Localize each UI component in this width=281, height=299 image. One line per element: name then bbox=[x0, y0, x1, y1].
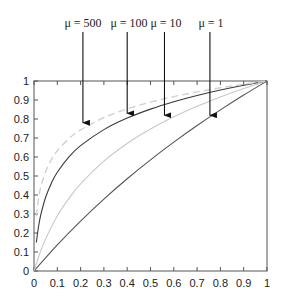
x-tick-label: 0.7 bbox=[189, 277, 204, 289]
x-tick-label: 0.4 bbox=[120, 277, 135, 289]
annotation-mu-10: μ = 10 bbox=[150, 16, 181, 30]
annotation-mu-500: μ = 500 bbox=[64, 16, 101, 30]
x-axis-tick-labels: 00.10.20.30.40.50.60.70.80.91 bbox=[31, 277, 270, 289]
annotation-mu-1: μ = 1 bbox=[198, 16, 223, 30]
annotation-layer: μ = 500 μ = 100 μ = 10 μ = 1 bbox=[64, 16, 223, 30]
y-tick-label: 0.5 bbox=[14, 170, 29, 182]
x-tick-label: 0.3 bbox=[96, 277, 111, 289]
x-tick-label: 0.9 bbox=[236, 277, 251, 289]
annotation-mu-100: μ = 100 bbox=[110, 16, 147, 30]
y-tick-label: 0.3 bbox=[14, 208, 29, 220]
x-tick-label: 0 bbox=[31, 277, 37, 289]
y-tick-label: 0.8 bbox=[14, 113, 29, 125]
y-tick-label: 0.2 bbox=[14, 227, 29, 239]
y-tick-label: 0 bbox=[23, 265, 29, 277]
y-axis-ticks bbox=[34, 81, 38, 271]
y-tick-label: 0.7 bbox=[14, 132, 29, 144]
x-tick-label: 0.2 bbox=[73, 277, 88, 289]
x-tick-label: 0.8 bbox=[213, 277, 228, 289]
y-tick-label: 0.1 bbox=[14, 246, 29, 258]
series-line bbox=[36, 81, 267, 242]
x-tick-label: 1 bbox=[264, 277, 270, 289]
y-axis-tick-labels: 00.10.20.30.40.50.60.70.80.91 bbox=[14, 75, 29, 277]
chart: 00.10.20.30.40.50.60.70.80.91 00.10.20.3… bbox=[0, 0, 281, 299]
y-tick-label: 1 bbox=[23, 75, 29, 87]
series-layer bbox=[34, 81, 267, 271]
x-tick-label: 0.1 bbox=[50, 277, 65, 289]
x-tick-label: 0.5 bbox=[143, 277, 158, 289]
y-tick-label: 0.6 bbox=[14, 151, 29, 163]
y-tick-label: 0.9 bbox=[14, 94, 29, 106]
y-tick-label: 0.4 bbox=[14, 189, 29, 201]
x-tick-label: 0.6 bbox=[166, 277, 181, 289]
